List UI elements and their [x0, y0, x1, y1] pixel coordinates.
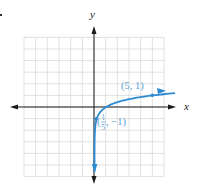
log-curve	[95, 93, 176, 172]
label-point-5-1: (5, 1)	[121, 80, 144, 92]
svg-text:1: 1	[102, 113, 106, 122]
y-axis-label: y	[89, 8, 95, 20]
x-axis-label: x	[183, 100, 189, 112]
curve-right-arrow-icon	[157, 88, 166, 94]
svg-text:5: 5	[102, 123, 106, 132]
curve-down-arrow-icon	[92, 164, 98, 173]
y-axis-bottom-arrow-icon	[92, 176, 97, 184]
svg-text:(: (	[97, 116, 101, 128]
x-axis-left-arrow-icon	[10, 105, 18, 110]
y-axis-top-arrow-icon	[92, 26, 97, 34]
x-axis-right-arrow-icon	[168, 105, 176, 110]
label-point-fifth-neg1: ( 1 5 , −1)	[97, 113, 126, 132]
corner-mark	[0, 14, 2, 16]
axes	[10, 26, 176, 184]
svg-text:, −1): , −1)	[106, 116, 126, 128]
log-graph: y x (5, 1) ( 1 5 , −1)	[0, 0, 199, 188]
point-5-1	[151, 94, 155, 98]
